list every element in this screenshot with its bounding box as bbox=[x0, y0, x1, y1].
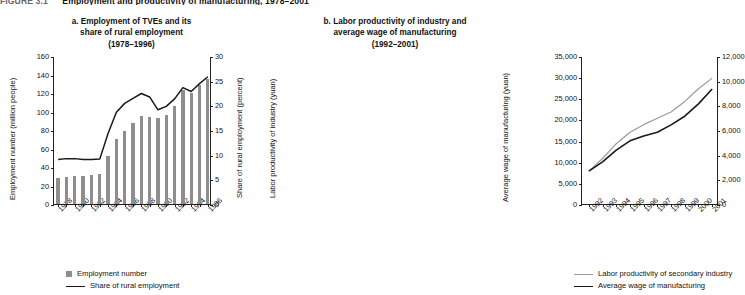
panel-a-y-right-title: Share of rural employment (percent) bbox=[236, 78, 244, 198]
panel-b: b. Labor productivity of industry and av… bbox=[263, 10, 527, 295]
legend-line-icon bbox=[574, 286, 593, 287]
panel-b-y-right-tick-label: 2,000 bbox=[722, 176, 741, 183]
panel-a-y-left-tick-label: 0 bbox=[45, 201, 49, 208]
panel-a-legend-item-label: Share of rural employment bbox=[90, 280, 179, 292]
panel-a-y-right-tick-label: 5 bbox=[215, 176, 219, 183]
panel-a-y-left-tick-label: 40 bbox=[41, 164, 49, 171]
panel-a-y-right-tick-label: 15 bbox=[215, 127, 223, 134]
panel-a-y-right-tick-label: 10 bbox=[215, 152, 223, 159]
panel-a-legend: Employment numberShare of rural employme… bbox=[66, 268, 179, 292]
panel-a-y-left-tick-label: 80 bbox=[41, 127, 49, 134]
panel-a-plot-area: 020406080100120140160 051015202530 19781… bbox=[53, 57, 211, 205]
panel-b-y-left-tick-label: 35,000 bbox=[554, 53, 577, 60]
panel-a-y-right-tick-label: 30 bbox=[215, 53, 223, 60]
panel-a-title-line3: (1978–1996) bbox=[40, 39, 223, 50]
figure-title-number: FIGURE 3.1 bbox=[0, 0, 48, 5]
panel-b-wage-line bbox=[589, 89, 712, 171]
panel-b-y-left-tick bbox=[579, 205, 582, 206]
panel-a-y-left-tick-label: 100 bbox=[37, 109, 49, 116]
panel-b-legend-item: Average wage of manufacturing bbox=[574, 280, 732, 292]
panel-a-y-left-tick-label: 60 bbox=[41, 146, 49, 153]
panel-b-y-left-title: Labor productivity of industry (yuan) bbox=[269, 79, 277, 198]
panel-b-y-right-tick-label: 4,000 bbox=[722, 152, 741, 159]
panel-b-plot-area: 05,00010,00015,00020,00025,00030,00035,0… bbox=[581, 57, 718, 205]
panel-b-y-left-tick-label: 5,000 bbox=[559, 180, 578, 187]
panel-a: a. Employment of TVEs and its share of r… bbox=[0, 10, 263, 295]
panel-a-y-left-title: Employment number (million people) bbox=[9, 78, 17, 200]
panel-b-y-left-tick-label: 20,000 bbox=[554, 116, 577, 123]
panel-a-y-left-tick-label: 20 bbox=[41, 183, 49, 190]
panel-b-y-left-tick-label: 30,000 bbox=[554, 74, 577, 81]
panel-a-share-line bbox=[58, 77, 208, 160]
panel-b-legend-item-label: Labor productivity of secondary industry bbox=[598, 268, 732, 280]
legend-line-icon bbox=[574, 274, 593, 275]
panel-b-legend-item-label: Average wage of manufacturing bbox=[598, 280, 705, 292]
panel-a-title-line1: a. Employment of TVEs and its bbox=[40, 16, 223, 27]
panel-b-y-right-tick-label: 10,000 bbox=[722, 78, 745, 85]
panel-b-y-left-tick-label: 10,000 bbox=[554, 159, 577, 166]
panel-b-legend: Labor productivity of secondary industry… bbox=[574, 268, 732, 292]
panel-b-title-line3: (1992–2001) bbox=[289, 39, 501, 50]
panel-a-title: a. Employment of TVEs and its share of r… bbox=[0, 16, 263, 50]
panel-a-y-left-tick bbox=[51, 205, 54, 206]
panel-a-y-right-tick-label: 20 bbox=[215, 102, 223, 109]
panel-a-y-right-tick-label: 25 bbox=[215, 78, 223, 85]
panel-b-y-right-tick-label: 8,000 bbox=[722, 102, 741, 109]
legend-square-icon bbox=[66, 271, 72, 277]
panel-a-legend-item-label: Employment number bbox=[77, 268, 147, 280]
panel-a-y-left-tick-label: 120 bbox=[37, 90, 49, 97]
figure-title: FIGURE 3.1 Employment and productivity o… bbox=[0, 0, 527, 5]
panel-b-y-right-tick-label: 6,000 bbox=[722, 127, 741, 134]
panel-b-y-right-title: Average wage of manufacturing (yuan) bbox=[502, 73, 510, 202]
figure-title-text: Employment and productivity of manufactu… bbox=[50, 0, 309, 5]
panel-b-line-series bbox=[582, 57, 719, 205]
panel-b-legend-item: Labor productivity of secondary industry bbox=[574, 268, 732, 280]
panel-b-title-line2: average wage of manufacturing bbox=[289, 27, 501, 38]
panel-a-y-left-tick-label: 160 bbox=[37, 53, 49, 60]
panel-b-title-line1: b. Labor productivity of industry and bbox=[289, 16, 501, 27]
panel-b-y-left-tick-label: 25,000 bbox=[554, 95, 577, 102]
panel-b-y-right-tick-label: 12,000 bbox=[722, 53, 745, 60]
legend-line-icon bbox=[66, 286, 85, 287]
panel-b-y-left-tick-label: 0 bbox=[573, 201, 577, 208]
panel-b-y-left-tick-label: 15,000 bbox=[554, 138, 577, 145]
panel-b-title: b. Labor productivity of industry and av… bbox=[263, 16, 527, 50]
panel-a-line-series bbox=[54, 57, 212, 205]
panel-a-legend-item: Employment number bbox=[66, 268, 179, 280]
panel-a-title-line2: share of rural employment bbox=[40, 27, 223, 38]
panel-a-y-left-tick-label: 140 bbox=[37, 72, 49, 79]
panel-a-legend-item: Share of rural employment bbox=[66, 280, 179, 292]
